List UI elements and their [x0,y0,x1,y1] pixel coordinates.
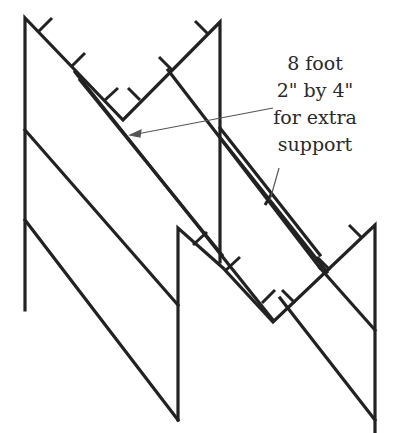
hinge-tick [262,290,275,303]
hinge-tick [193,232,207,245]
extra-support-board-edge-a [80,80,222,255]
hinge-tick [128,88,140,100]
support-board-edge [222,140,327,272]
annotation-line-3: for extra [255,104,375,131]
annotation-line-4: support [255,131,375,158]
right-panel-outline [225,225,375,433]
hinge-tick [349,225,362,238]
hinge-tick [72,53,85,66]
hinge-tick [195,21,208,34]
right-panel-inner-diagonal [320,268,375,330]
hinge-tick [38,18,52,32]
left-panel-middle-diagonal [25,130,178,305]
arrowhead-icon [130,130,141,137]
left-panel-bottom-diagonal [25,220,178,420]
hinge-tick [105,88,118,100]
annotation-line-1: 8 foot [255,50,375,77]
hinge-tick [159,57,172,70]
center-post [178,228,223,420]
pointer-line [137,108,273,134]
annotation-line-2: 2" by 4" [255,77,375,104]
annotation-label: 8 foot 2" by 4" for extra support [255,50,375,158]
